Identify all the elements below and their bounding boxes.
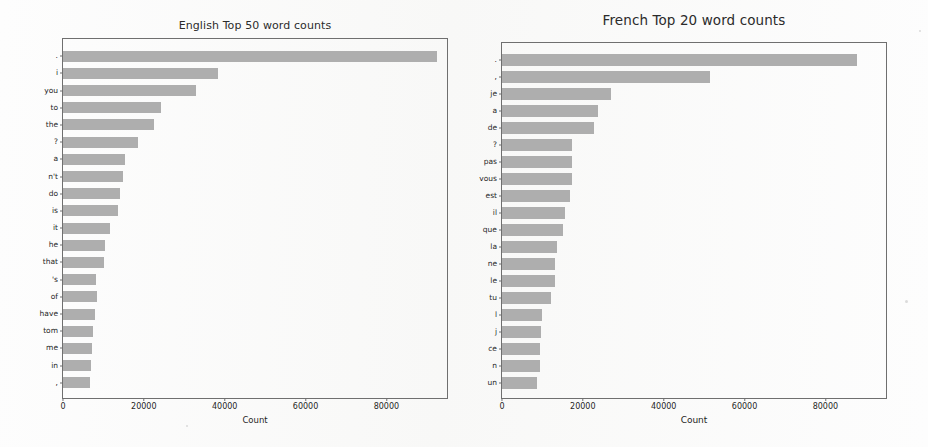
bar (63, 188, 120, 199)
y-tick-label: ne (488, 260, 497, 268)
x-tick: 40000 (651, 398, 676, 411)
bar-row: un (502, 377, 886, 389)
y-tick-mark (60, 90, 63, 91)
x-tick: 60000 (732, 398, 757, 411)
y-tick-label: it (53, 224, 58, 232)
bar-row: la (502, 241, 886, 253)
bar-row: je (502, 88, 886, 100)
bar (63, 119, 154, 130)
x-tick-label: 0 (499, 403, 504, 411)
bar-row: to (63, 102, 447, 113)
bar (63, 343, 92, 354)
chart-title-english: English Top 50 word counts (62, 19, 448, 32)
y-tick-label: n (492, 362, 497, 370)
bar (63, 240, 105, 251)
y-tick-mark (499, 247, 502, 248)
bar-row: . (63, 51, 447, 62)
y-tick-label: j (495, 328, 497, 336)
bar (502, 241, 557, 253)
y-tick-label: a (492, 107, 497, 115)
bar-row: n't (63, 171, 447, 182)
bar (502, 275, 555, 287)
x-tick-label: 20000 (570, 403, 595, 411)
bar (502, 139, 572, 151)
bar (502, 292, 551, 304)
y-tick-mark (499, 213, 502, 214)
y-tick-mark (60, 159, 63, 160)
bar-row: ? (502, 139, 886, 151)
bar (63, 51, 437, 62)
y-tick-mark (60, 142, 63, 143)
bar-row: a (63, 154, 447, 165)
bar-row: , (502, 71, 886, 83)
x-axis-label-english: Count (63, 416, 447, 425)
x-tick-label: 60000 (732, 403, 757, 411)
bar-row: is (63, 205, 447, 216)
bar-row: in (63, 360, 447, 371)
x-tick-label: 0 (60, 403, 65, 411)
y-tick-mark (60, 210, 63, 211)
x-tick-mark (502, 398, 503, 401)
x-tick-label: 60000 (293, 403, 318, 411)
bar-row: . (502, 54, 886, 66)
bar (63, 309, 95, 320)
plot-area-english: .iyoutothe?an'tdoisithethat'sofhavetomme… (62, 38, 448, 399)
bar-row: he (63, 240, 447, 251)
y-tick-label: ? (493, 141, 497, 149)
x-tick-mark (582, 398, 583, 401)
scan-speck (186, 425, 188, 427)
bar (502, 190, 570, 202)
bar (502, 173, 572, 185)
y-tick-label: est (486, 192, 497, 200)
bar (63, 291, 97, 302)
x-tick-label: 40000 (212, 403, 237, 411)
bar-row: 's (63, 274, 447, 285)
y-tick-mark (499, 281, 502, 282)
x-tick: 60000 (293, 398, 318, 411)
y-tick-label: pas (484, 158, 497, 166)
x-tick-mark (663, 398, 664, 401)
bar-row: tom (63, 326, 447, 337)
y-tick-label: la (490, 243, 497, 251)
x-tick: 20000 (131, 398, 156, 411)
bar-row: tu (502, 292, 886, 304)
y-tick-label: do (49, 190, 58, 198)
y-tick-mark (499, 179, 502, 180)
bar (502, 326, 541, 338)
y-tick-label: vous (479, 175, 497, 183)
x-tick: 0 (499, 398, 504, 411)
x-tick: 40000 (212, 398, 237, 411)
bar (63, 137, 138, 148)
bar (502, 224, 563, 236)
bar-row: ce (502, 343, 886, 355)
chart-title-french: French Top 20 word counts (501, 12, 887, 28)
y-tick-mark (60, 365, 63, 366)
bar (502, 258, 555, 270)
bar-row: it (63, 223, 447, 234)
y-tick-mark (60, 314, 63, 315)
y-tick-label: you (44, 87, 58, 95)
chart-panel-english: English Top 50 word counts .iyoutothe?an… (0, 0, 464, 447)
bar (63, 102, 161, 113)
x-tick: 80000 (813, 398, 838, 411)
bar (502, 360, 540, 372)
chart-panel-french: French Top 20 word counts .,jeade?pasvou… (464, 0, 928, 447)
y-tick-mark (60, 193, 63, 194)
bar (63, 274, 96, 285)
bar-row: , (63, 377, 447, 388)
bar-row: do (63, 188, 447, 199)
bar (63, 171, 123, 182)
x-tick-label: 40000 (651, 403, 676, 411)
y-tick-mark (60, 279, 63, 280)
y-tick-label: le (490, 277, 497, 285)
bar (63, 326, 93, 337)
y-tick-mark (60, 56, 63, 57)
x-tick-mark (224, 398, 225, 401)
y-tick-mark (499, 298, 502, 299)
y-tick-mark (499, 264, 502, 265)
y-tick-label: tu (489, 294, 497, 302)
x-tick-label: 20000 (131, 403, 156, 411)
bar-row: que (502, 224, 886, 236)
x-tick-mark (305, 398, 306, 401)
y-tick-mark (499, 196, 502, 197)
